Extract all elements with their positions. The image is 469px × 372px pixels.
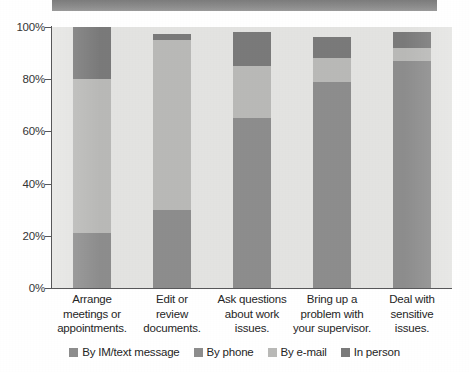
category-label-line: meetings or	[46, 307, 138, 322]
x-axis-category-label: Edit orreviewdocuments.	[126, 292, 218, 336]
chart-legend: By IM/text messageBy phoneBy e-mailIn pe…	[0, 343, 469, 361]
bar-segment	[313, 58, 351, 81]
category-label-line: your supervisor.	[286, 321, 378, 336]
bar-segment	[73, 27, 111, 79]
y-axis-tick-mark	[45, 131, 52, 132]
bar-segment	[153, 40, 191, 210]
y-axis-tick-mark	[45, 236, 52, 237]
bar-segment	[233, 32, 271, 66]
bar-segment	[393, 48, 431, 61]
legend-label: By IM/text message	[82, 346, 179, 358]
bar-stack	[153, 27, 191, 288]
category-label-line: issues.	[366, 321, 458, 336]
chart-figure: 0%20%40%60%80%100% Arrangemeetings orapp…	[0, 0, 469, 372]
bar-stack	[233, 27, 271, 288]
category-label-line: Arrange	[46, 292, 138, 307]
x-axis-line	[51, 288, 452, 289]
category-label-line: issues.	[206, 321, 298, 336]
bar-segment	[233, 118, 271, 288]
category-label-line: problem with	[286, 307, 378, 322]
legend-item: By e-mail	[268, 346, 327, 358]
bar-stack	[393, 27, 431, 288]
category-label-line: Bring up a	[286, 292, 378, 307]
y-axis-tick-mark	[45, 79, 52, 80]
bar-stack	[313, 27, 351, 288]
y-axis-tick-label: 20%	[3, 230, 45, 242]
category-label-line: review	[126, 307, 218, 322]
legend-item: By IM/text message	[69, 346, 179, 358]
category-label-line: about work	[206, 307, 298, 322]
category-label-line: Deal with	[366, 292, 458, 307]
bar-stack	[73, 27, 111, 288]
y-axis-tick-mark	[45, 184, 52, 185]
bar-segment	[393, 61, 431, 288]
title-band	[52, 0, 437, 11]
category-label-line: Edit or	[126, 292, 218, 307]
x-axis-category-label: Arrangemeetings orappointments.	[46, 292, 138, 336]
legend-item: In person	[341, 346, 400, 358]
y-axis-line	[51, 26, 52, 289]
x-axis-category-label: Ask questionsabout workissues.	[206, 292, 298, 336]
x-axis-category-label: Bring up aproblem withyour supervisor.	[286, 292, 378, 336]
bar-segment	[313, 37, 351, 58]
bar-segment	[153, 210, 191, 288]
legend-label: By e-mail	[281, 346, 327, 358]
y-axis-tick-label: 60%	[3, 125, 45, 137]
y-axis-tick-label: 40%	[3, 178, 45, 190]
x-axis-category-labels: Arrangemeetings orappointments.Edit orre…	[52, 292, 452, 338]
y-axis-tick-label: 100%	[3, 21, 45, 33]
y-axis-tick-mark	[45, 27, 52, 28]
bar-segment	[233, 66, 271, 118]
bar-segment	[73, 233, 111, 288]
y-axis-tick-label: 0%	[3, 282, 45, 294]
bar-segment	[153, 34, 191, 41]
legend-swatch-icon	[268, 348, 277, 357]
x-axis-category-label: Deal withsensitiveissues.	[366, 292, 458, 336]
plot-area	[52, 27, 452, 288]
category-label-line: documents.	[126, 321, 218, 336]
category-label-line: appointments.	[46, 321, 138, 336]
bar-segment	[73, 79, 111, 233]
y-axis-tick-mark	[45, 288, 52, 289]
bar-segment	[393, 32, 431, 48]
legend-label: By phone	[207, 346, 254, 358]
bar-segment	[313, 82, 351, 288]
y-axis-tick-label: 80%	[3, 73, 45, 85]
legend-swatch-icon	[69, 348, 78, 357]
category-label-line: sensitive	[366, 307, 458, 322]
legend-item: By phone	[194, 346, 254, 358]
legend-swatch-icon	[341, 348, 350, 357]
legend-swatch-icon	[194, 348, 203, 357]
category-label-line: Ask questions	[206, 292, 298, 307]
legend-label: In person	[354, 346, 400, 358]
